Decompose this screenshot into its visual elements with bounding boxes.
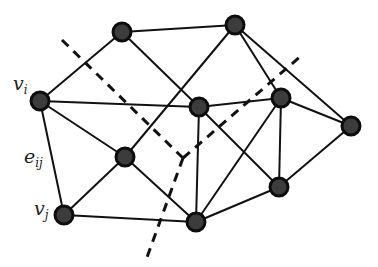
edge-vi-n7 [40, 101, 125, 157]
label-vj: vj [34, 197, 49, 222]
edge-n2-n5 [235, 25, 281, 98]
edge-n1-n4 [122, 32, 199, 107]
node-vi [31, 92, 49, 110]
node-n5 [272, 89, 290, 107]
node-n2 [226, 16, 244, 34]
edge-n2-n6 [235, 25, 351, 126]
graph-diagram: vi eij vj [0, 0, 378, 267]
edge-n7-vj [64, 157, 125, 215]
edge-n6-n8 [279, 126, 351, 187]
graph-edges [40, 25, 351, 222]
edge-n4-n10 [196, 107, 199, 222]
node-n4 [190, 98, 208, 116]
edge-vi-n4 [40, 101, 199, 107]
edge-n5-n6 [281, 98, 351, 126]
edge-n2-n7 [125, 25, 235, 157]
label-eij: eij [24, 145, 43, 170]
cut-line-0 [62, 40, 183, 158]
edge-n7-n10 [125, 157, 196, 222]
edge-vj-n10 [64, 215, 196, 222]
node-vj [55, 206, 73, 224]
label-vi: vi [13, 72, 28, 97]
cut-line-2 [146, 158, 183, 260]
node-n10 [187, 213, 205, 231]
node-n8 [270, 178, 288, 196]
edge-n4-n5 [199, 98, 281, 107]
node-n6 [342, 117, 360, 135]
node-n1 [113, 23, 131, 41]
edge-n1-n2 [122, 25, 235, 32]
node-n7 [116, 148, 134, 166]
edge-n1-vi [40, 32, 122, 101]
edge-n5-n8 [279, 98, 281, 187]
